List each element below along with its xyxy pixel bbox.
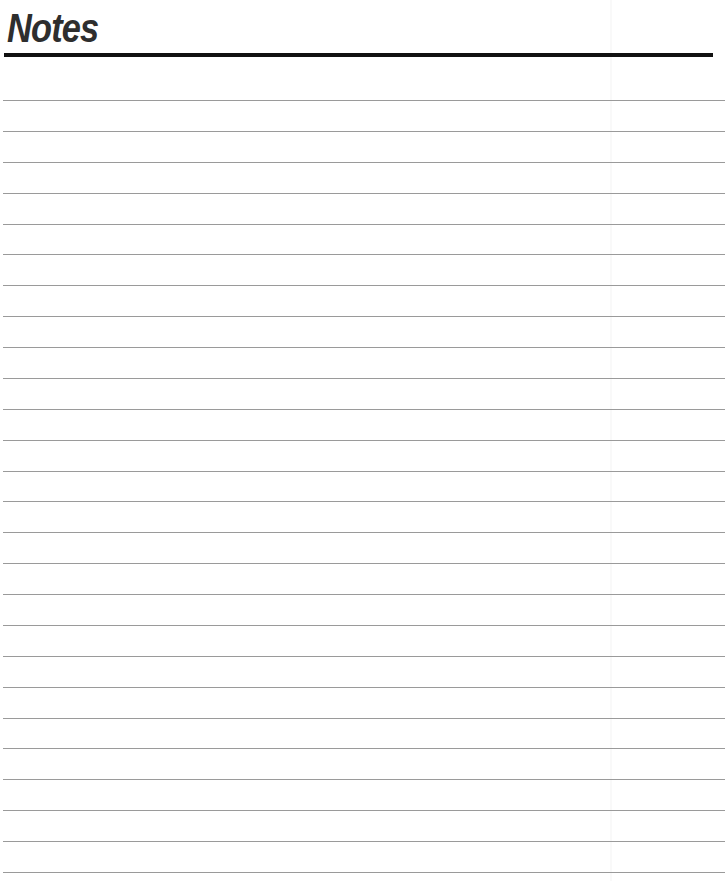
ruled-line [3,625,725,626]
ruled-line [3,594,725,595]
ruled-line [3,810,725,811]
ruled-line [3,347,725,348]
ruled-line [3,501,725,502]
ruled-line [3,193,725,194]
ruled-line [3,841,725,842]
ruled-line [3,471,725,472]
title-underline [4,53,713,57]
ruled-line [3,748,725,749]
ruled-line [3,254,725,255]
ruled-line [3,162,725,163]
ruled-line [3,224,725,225]
ruled-line [3,100,725,101]
ruled-line [3,409,725,410]
ruled-line [3,532,725,533]
ruled-line [3,285,725,286]
ruled-line [3,779,725,780]
ruled-line [3,656,725,657]
ruled-line [3,718,725,719]
page-title: Notes [7,6,98,50]
ruled-line [3,316,725,317]
ruled-line [3,131,725,132]
ruled-line [3,378,725,379]
ruled-line [3,563,725,564]
ruled-line [3,872,725,873]
ruled-line [3,440,725,441]
ruled-line [3,687,725,688]
